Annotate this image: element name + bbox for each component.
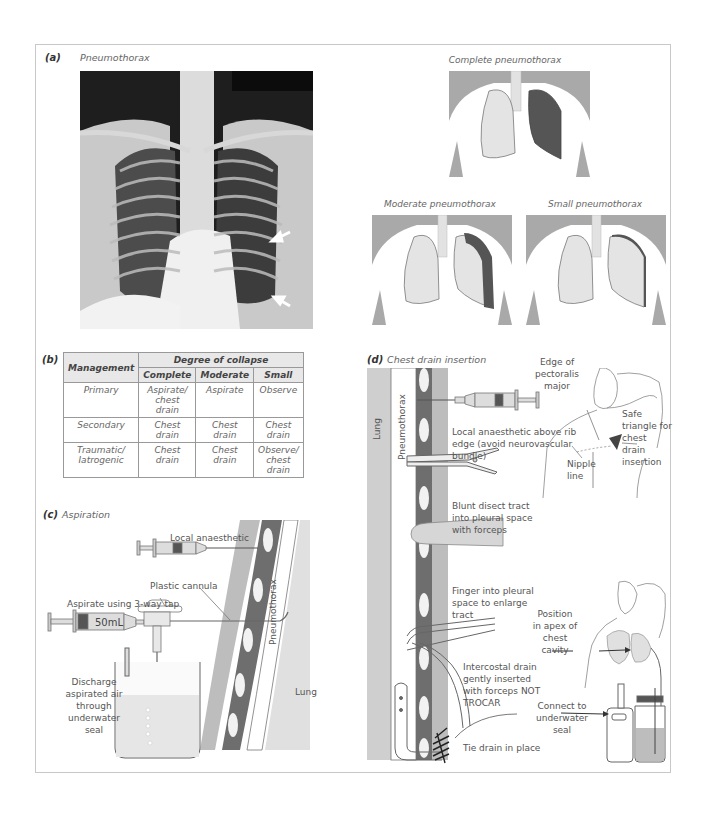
complete-pneumothorax-caption: Complete pneumothorax (430, 55, 580, 65)
local-anaesthetic-label: Local anaesthetic (170, 532, 249, 544)
aspirate-label: Aspirate using 3-way tap (67, 598, 179, 610)
row-type: Secondary (64, 418, 139, 443)
cell-complete: Aspirate/ chest drain (139, 383, 196, 418)
cell-moderate: Chest drain (196, 443, 254, 478)
connect-seal-label: Connect to underwater seal (530, 700, 594, 736)
panel-a-title: Pneumothorax (80, 52, 150, 63)
table-row: Traumatic/ Iatrogenic Chest drain Chest … (64, 443, 304, 478)
header-management: Management (64, 353, 139, 383)
xray-arrow-icons (80, 71, 313, 329)
panel-c-title: Aspiration (62, 509, 110, 520)
lung-label-c: Lung (295, 686, 317, 698)
panel-c-label: (c) (43, 509, 58, 520)
edge-pectoralis-label: Edge of pectoralis major (522, 356, 592, 392)
panel-b-label: (b) (42, 354, 58, 365)
moderate-pneumothorax-diagram (372, 215, 512, 325)
small-pneumothorax-diagram (526, 215, 666, 325)
cell-complete: Chest drain (139, 418, 196, 443)
complete-pneumothorax-diagram (449, 71, 590, 177)
pneumothorax-label-d: Pneumothorax (396, 394, 408, 460)
header-complete: Complete (139, 368, 196, 383)
moderate-pneumothorax-caption: Moderate pneumothorax (365, 199, 515, 209)
header-small: Small (254, 368, 304, 383)
small-pneumothorax-caption: Small pneumothorax (520, 199, 670, 209)
finger-label: Finger into pleural space to enlarge tra… (452, 585, 536, 621)
panel-d-label: (d) (367, 354, 383, 365)
la-above-rib-label: Local anaesthetic above rib edge (avoid … (452, 426, 582, 462)
cell-small: Observe (254, 383, 304, 418)
header-degree-of-collapse: Degree of collapse (139, 353, 303, 368)
cell-moderate: Chest drain (196, 418, 254, 443)
cell-small: Chest drain (254, 418, 304, 443)
lung-label-d: Lung (371, 418, 383, 440)
safe-triangle-label: Safe triangle for chest drain insertion (622, 408, 672, 468)
management-table: Management Degree of collapse Complete M… (63, 352, 304, 478)
blunt-dissect-label: Blunt disect tract into pleural space wi… (452, 500, 542, 536)
pneumothorax-label-c: Pneumothorax (267, 579, 279, 645)
header-moderate: Moderate (196, 368, 254, 383)
syringe-volume-label: 50mL (95, 617, 123, 628)
tie-drain-label: Tie drain in place (463, 742, 540, 754)
discharge-label: Discharge aspirated air through underwat… (64, 676, 124, 736)
cell-small: Observe/ chest drain (254, 443, 304, 478)
table-row: Primary Aspirate/ chest drain Aspirate O… (64, 383, 304, 418)
position-apex-label: Position in apex of chest cavity (532, 608, 578, 656)
row-type: Traumatic/ Iatrogenic (64, 443, 139, 478)
chest-xray-image (80, 71, 313, 329)
plastic-cannula-label: Plastic cannula (150, 580, 218, 592)
cell-moderate: Aspirate (196, 383, 254, 418)
panel-a-label: (a) (45, 52, 61, 63)
row-type: Primary (64, 383, 139, 418)
cell-complete: Chest drain (139, 443, 196, 478)
panel-d-title: Chest drain insertion (387, 354, 486, 365)
table-row: Secondary Chest drain Chest drain Chest … (64, 418, 304, 443)
